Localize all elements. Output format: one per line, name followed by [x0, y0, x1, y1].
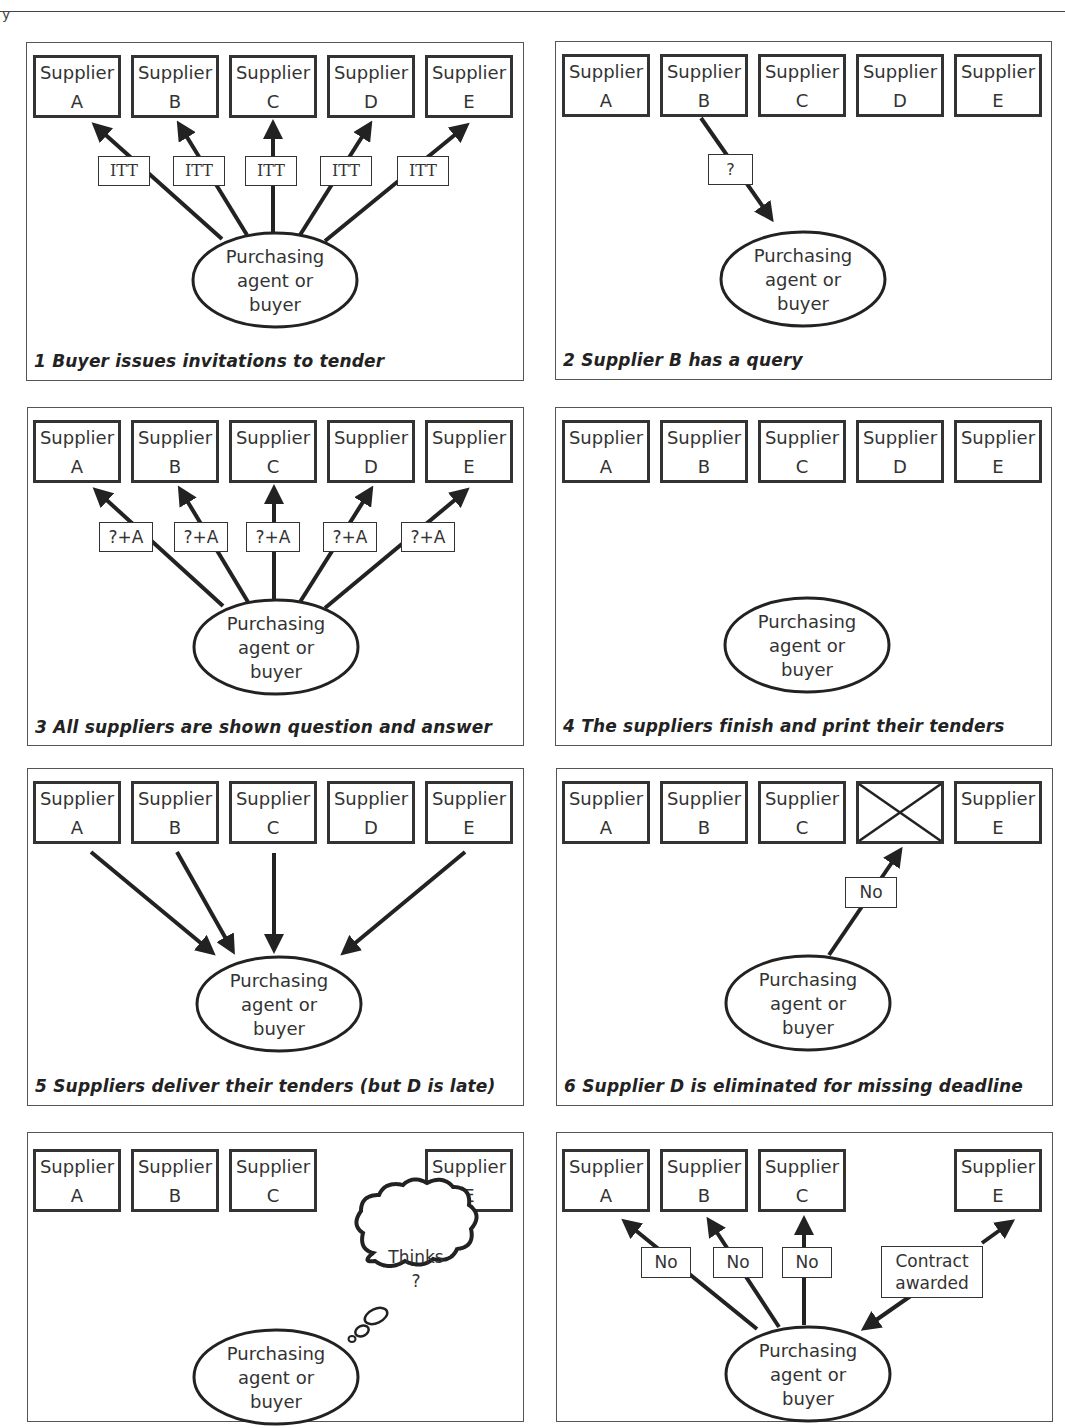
supplier-e-box: SupplierE: [425, 55, 513, 118]
supplier-e-box: SupplierE: [954, 54, 1042, 117]
supplier-a-box: SupplierA: [33, 781, 121, 844]
supplier-d-box: SupplierD: [327, 781, 415, 844]
qa-label-e: ?+A: [401, 522, 455, 552]
panel-caption: 6 Supplier D is eliminated for missing d…: [564, 1076, 1023, 1096]
supplier-b-box: SupplierB: [660, 420, 748, 483]
supplier-b-box: SupplierB: [660, 1149, 748, 1212]
panel-caption: 5 Suppliers deliver their tenders (but D…: [35, 1076, 496, 1096]
no-label-d: No: [845, 877, 897, 908]
supplier-b-box: SupplierB: [131, 781, 219, 844]
buyer-ellipse: Purchasingagent orbuyer: [194, 955, 364, 1055]
page-top-rule: y: [0, 11, 1065, 12]
panel-1-invitations-to-tender: SupplierA SupplierB SupplierC SupplierD …: [26, 42, 524, 381]
itt-label-e: ITT: [397, 156, 449, 186]
panel-3-question-and-answer: SupplierA SupplierB SupplierC SupplierD …: [27, 407, 524, 746]
panel-2-supplier-query: SupplierA SupplierB SupplierC SupplierD …: [555, 41, 1052, 380]
supplier-c-box: SupplierC: [758, 54, 846, 117]
supplier-c-box: SupplierC: [229, 55, 317, 118]
qa-label-c: ?+A: [246, 522, 300, 552]
supplier-a-box: SupplierA: [562, 420, 650, 483]
supplier-d-box: SupplierD: [856, 420, 944, 483]
supplier-a-box: SupplierA: [562, 54, 650, 117]
qa-label-a: ?+A: [99, 522, 153, 552]
panel-7-buyer-thinks: SupplierA SupplierB SupplierC SupplierE …: [27, 1132, 524, 1422]
supplier-a-box: SupplierA: [33, 420, 121, 483]
supplier-c-box: SupplierC: [758, 420, 846, 483]
panel-caption: 3 All suppliers are shown question and a…: [35, 717, 492, 737]
buyer-ellipse: Purchasingagent orbuyer: [190, 231, 360, 331]
itt-label-b: ITT: [173, 156, 225, 186]
cross-out-icon: [859, 784, 941, 841]
itt-label-c: ITT: [245, 156, 297, 186]
panel-caption: 4 The suppliers finish and print their t…: [563, 716, 1005, 736]
buyer-ellipse: Purchasingagent orbuyer: [722, 596, 892, 696]
supplier-e-box: SupplierE: [425, 420, 513, 483]
no-label-b: No: [713, 1247, 763, 1278]
panel-4-finish-tenders: SupplierA SupplierB SupplierC SupplierD …: [555, 407, 1052, 746]
supplier-a-box: SupplierA: [562, 781, 650, 844]
supplier-d-box: SupplierD: [327, 55, 415, 118]
panel-caption: 1 Buyer issues invitations to tender: [34, 351, 384, 371]
buyer-ellipse: Purchasingagent orbuyer: [191, 1328, 361, 1428]
supplier-c-box: SupplierC: [229, 420, 317, 483]
buyer-ellipse: Purchasingagent orbuyer: [191, 598, 361, 698]
buyer-ellipse: Purchasingagent orbuyer: [723, 1325, 893, 1425]
panel-6-supplier-d-eliminated: SupplierA SupplierB SupplierC SupplierE …: [556, 768, 1053, 1106]
supplier-d-eliminated-box: [856, 781, 944, 844]
query-label: ?: [708, 154, 753, 185]
qa-label-b: ?+A: [174, 522, 228, 552]
panel-caption: 2 Supplier B has a query: [563, 350, 803, 370]
itt-label-a: ITT: [98, 156, 150, 186]
supplier-b-box: SupplierB: [660, 54, 748, 117]
supplier-e-box: SupplierE: [954, 420, 1042, 483]
qa-label-d: ?+A: [323, 522, 377, 552]
supplier-b-box: SupplierB: [131, 420, 219, 483]
supplier-a-box: SupplierA: [33, 55, 121, 118]
panel-5-deliver-tenders: SupplierA SupplierB SupplierC SupplierD …: [27, 768, 524, 1106]
contract-awarded-label: Contract awarded: [881, 1246, 983, 1298]
cut-off-heading-fragment: y: [2, 6, 10, 22]
supplier-c-box: SupplierC: [758, 1149, 846, 1212]
supplier-e-box: SupplierE: [954, 781, 1042, 844]
buyer-ellipse: Purchasingagent orbuyer: [723, 954, 893, 1054]
no-label-c: No: [782, 1247, 832, 1278]
supplier-a-box: SupplierA: [562, 1149, 650, 1212]
supplier-b-box: SupplierB: [660, 781, 748, 844]
supplier-c-box: SupplierC: [229, 781, 317, 844]
panel-8-contract-awarded: SupplierA SupplierB SupplierC SupplierE …: [556, 1132, 1053, 1422]
no-label-a: No: [641, 1247, 691, 1278]
supplier-e-box: SupplierE: [954, 1149, 1042, 1212]
supplier-b-box: SupplierB: [131, 55, 219, 118]
supplier-e-box: SupplierE: [425, 781, 513, 844]
itt-label-d: ITT: [320, 156, 372, 186]
buyer-ellipse: Purchasingagent orbuyer: [718, 230, 888, 330]
thought-bubble-text: Thinks ?: [371, 1245, 461, 1293]
supplier-d-box: SupplierD: [327, 420, 415, 483]
supplier-c-box: SupplierC: [758, 781, 846, 844]
supplier-d-box: SupplierD: [856, 54, 944, 117]
